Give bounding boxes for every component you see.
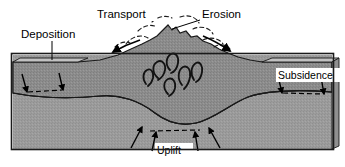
block-diagram: Transport Erosion Deposition Subsidence … <box>0 0 345 167</box>
debris-trail <box>138 25 157 31</box>
diagram-canvas: Transport Erosion Deposition Subsidence … <box>0 0 345 167</box>
deposition-surface-right <box>262 58 339 62</box>
debris-trail <box>180 16 199 23</box>
subsidence-label: Subsidence <box>278 69 333 81</box>
deposition-surface-left <box>13 58 88 62</box>
erosion-label: Erosion <box>202 8 241 20</box>
debris-trail <box>193 27 213 34</box>
transport-label: Transport <box>97 8 147 20</box>
deposition-label: Deposition <box>21 28 75 40</box>
